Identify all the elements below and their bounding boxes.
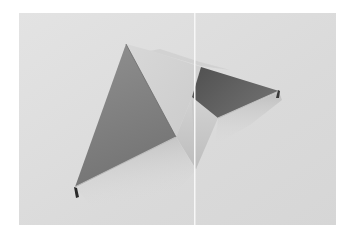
photograph-paper-sculpture bbox=[0, 0, 349, 236]
sculpture-illustration bbox=[0, 0, 349, 236]
gutter-line bbox=[194, 13, 196, 225]
